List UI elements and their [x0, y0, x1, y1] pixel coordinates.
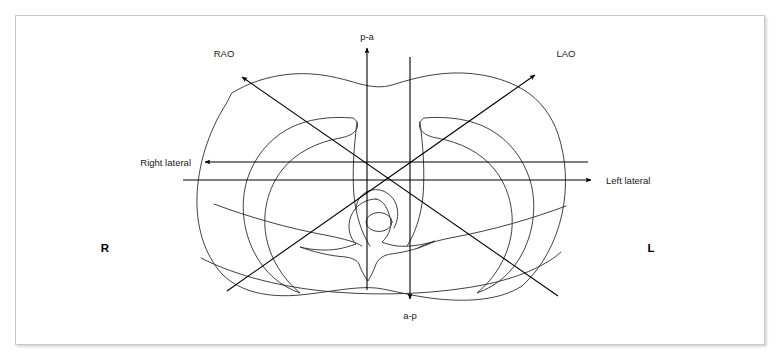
- vertebral-arch: [356, 190, 398, 228]
- thoracic-outline: [197, 73, 566, 300]
- label-pa: p-a: [360, 31, 374, 42]
- side-marker-right: R: [101, 242, 110, 254]
- thoracic-cross-section: [197, 73, 566, 300]
- label-rao: RAO: [214, 48, 235, 59]
- side-markers: R L: [101, 242, 655, 254]
- axis-lao: [227, 75, 535, 291]
- axis-labels: p-a a-p RAO LAO Right lateral Left later…: [140, 31, 650, 321]
- label-ap: a-p: [403, 310, 417, 321]
- axis-rao: [242, 77, 558, 296]
- rib-arc-left: [214, 204, 362, 246]
- side-marker-left: L: [647, 242, 654, 254]
- rib-arc-right: [418, 206, 566, 248]
- label-left-lateral: Left lateral: [606, 175, 650, 186]
- figure-root: p-a a-p RAO LAO Right lateral Left later…: [0, 0, 782, 363]
- projection-diagram: p-a a-p RAO LAO Right lateral Left later…: [0, 0, 782, 363]
- label-lao: LAO: [556, 48, 575, 59]
- right-lung-field: [243, 117, 357, 293]
- label-right-lateral: Right lateral: [140, 157, 191, 168]
- projection-axes: [183, 48, 591, 299]
- spinal-canal: [366, 213, 392, 232]
